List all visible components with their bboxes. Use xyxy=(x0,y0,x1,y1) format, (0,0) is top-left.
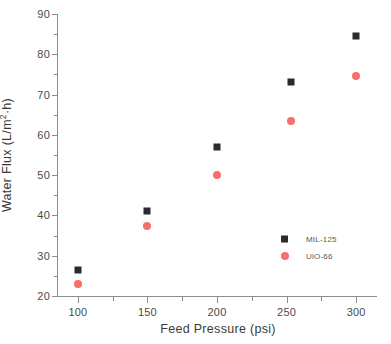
data-point-mil-125 xyxy=(214,143,221,150)
data-point-mil-125 xyxy=(353,33,360,40)
data-point-uio-66 xyxy=(74,280,82,288)
y-tick-label: 40 xyxy=(37,209,50,221)
y-tick-major xyxy=(52,175,58,176)
y-tick-minor xyxy=(54,195,58,196)
y-tick-minor xyxy=(54,236,58,237)
y-tick-minor xyxy=(54,74,58,75)
y-tick-label: 30 xyxy=(37,250,50,262)
data-point-mil-125 xyxy=(74,266,81,273)
y-tick-major xyxy=(52,256,58,257)
y-tick-major xyxy=(52,135,58,136)
x-axis-title: Feed Pressure (psi) xyxy=(160,322,275,336)
data-point-mil-125 xyxy=(287,79,294,86)
y-tick-major xyxy=(52,296,58,297)
y-tick-minor xyxy=(54,34,58,35)
y-axis-title-superscript: 2 xyxy=(0,114,8,119)
x-tick-label: 200 xyxy=(208,306,227,318)
data-point-uio-66 xyxy=(352,72,360,80)
y-tick-label: 80 xyxy=(37,48,50,60)
legend-swatch-circle-icon xyxy=(281,252,289,260)
y-axis-title-post: ·h) xyxy=(0,98,14,114)
data-point-uio-66 xyxy=(287,117,295,125)
legend-label-mil-125: MIL-125 xyxy=(306,234,337,243)
x-tick-major xyxy=(78,297,79,303)
y-tick-major xyxy=(52,14,58,15)
x-tick-minor xyxy=(252,297,253,301)
x-tick-major xyxy=(217,297,218,303)
y-tick-minor xyxy=(54,115,58,116)
y-tick-label: 20 xyxy=(37,290,50,302)
chart-legend: MIL-125 UiO-66 xyxy=(281,230,381,264)
legend-swatch-square-icon xyxy=(281,235,288,242)
x-tick-minor xyxy=(321,297,322,301)
y-tick-label: 50 xyxy=(37,169,50,181)
x-tick-major xyxy=(287,297,288,303)
y-tick-major xyxy=(52,54,58,55)
y-tick-major xyxy=(52,95,58,96)
data-point-mil-125 xyxy=(144,208,151,215)
y-axis-title: Water Flux (L/m2·h) xyxy=(0,98,14,212)
y-tick-minor xyxy=(54,276,58,277)
x-tick-label: 150 xyxy=(138,306,157,318)
scatter-chart-figure: 2030405060708090 100150200250300 Water F… xyxy=(0,0,391,344)
x-tick-major xyxy=(147,297,148,303)
data-point-uio-66 xyxy=(213,171,221,179)
legend-item-uio-66: UiO-66 xyxy=(281,247,381,264)
x-tick-major xyxy=(356,297,357,303)
y-tick-label: 90 xyxy=(37,8,50,20)
y-axis-title-pre: Water Flux (L/m xyxy=(0,119,14,212)
legend-item-mil-125: MIL-125 xyxy=(281,230,381,247)
x-tick-label: 250 xyxy=(277,306,296,318)
x-tick-minor xyxy=(113,297,114,301)
x-tick-minor xyxy=(182,297,183,301)
y-tick-major xyxy=(52,215,58,216)
y-tick-label: 70 xyxy=(37,89,50,101)
y-tick-label: 60 xyxy=(37,129,50,141)
data-point-uio-66 xyxy=(143,222,151,230)
x-tick-label: 300 xyxy=(347,306,366,318)
y-tick-minor xyxy=(54,155,58,156)
legend-label-uio-66: UiO-66 xyxy=(306,251,333,260)
x-tick-label: 100 xyxy=(68,306,87,318)
